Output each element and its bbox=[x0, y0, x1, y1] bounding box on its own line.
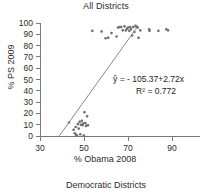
figure-caption: Democratic Districts bbox=[0, 180, 212, 190]
data-point bbox=[74, 126, 77, 129]
y-tick-label: 80 bbox=[24, 41, 34, 51]
y-tick-label: 40 bbox=[24, 86, 34, 96]
data-point bbox=[79, 133, 82, 136]
data-point bbox=[137, 36, 140, 39]
data-point bbox=[100, 30, 103, 33]
data-point bbox=[107, 36, 110, 39]
data-point bbox=[120, 26, 123, 29]
data-point bbox=[82, 134, 85, 137]
data-point bbox=[77, 123, 80, 126]
y-axis-ticks: 0102030405060708090100 bbox=[19, 18, 40, 141]
data-point bbox=[72, 128, 75, 131]
data-point bbox=[76, 134, 79, 137]
data-point bbox=[84, 122, 87, 125]
data-point bbox=[81, 119, 84, 122]
data-point bbox=[91, 30, 94, 33]
x-tick-label: 50 bbox=[79, 143, 89, 153]
data-point bbox=[148, 30, 151, 33]
x-tick-label: 90 bbox=[167, 143, 177, 153]
data-point bbox=[115, 35, 118, 38]
plot-canvas: 0102030405060708090100 30507090 ŷ = - 10… bbox=[0, 0, 212, 196]
data-point bbox=[130, 28, 133, 31]
data-point bbox=[123, 25, 126, 28]
y-tick-label: 30 bbox=[24, 97, 34, 107]
x-axis-ticks: 30507090 bbox=[35, 136, 177, 153]
r-squared-text: R² = 0.772 bbox=[136, 86, 176, 96]
x-tick-label: 30 bbox=[35, 143, 45, 153]
x-tick-label: 70 bbox=[123, 143, 133, 153]
y-tick-label: 60 bbox=[24, 63, 34, 73]
y-tick-label: 100 bbox=[19, 18, 33, 28]
y-tick-label: 90 bbox=[24, 29, 34, 39]
data-point bbox=[129, 26, 132, 29]
data-point bbox=[77, 127, 80, 130]
data-point bbox=[83, 111, 86, 114]
data-point bbox=[139, 29, 142, 32]
data-point bbox=[167, 29, 170, 32]
data-point bbox=[86, 115, 89, 118]
data-point bbox=[104, 37, 107, 40]
data-point bbox=[157, 30, 160, 33]
y-tick-label: 10 bbox=[24, 120, 34, 130]
data-point bbox=[87, 124, 90, 127]
y-tick-label: 0 bbox=[28, 131, 33, 141]
data-point bbox=[121, 29, 124, 32]
y-tick-label: 20 bbox=[24, 108, 34, 118]
y-tick-label: 50 bbox=[24, 75, 34, 85]
data-point bbox=[110, 32, 113, 35]
scatter-plot-figure: All Districts % PS 2009 % Obama 2008 010… bbox=[0, 0, 212, 196]
y-tick-label: 70 bbox=[24, 52, 34, 62]
regression-equation-text: ŷ = - 105.37+2.72x bbox=[113, 74, 185, 84]
